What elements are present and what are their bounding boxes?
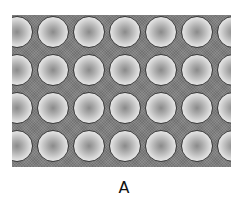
sphere-particle bbox=[73, 54, 105, 86]
sphere-particle bbox=[12, 16, 33, 48]
sphere-particle bbox=[145, 16, 177, 48]
sphere-particle bbox=[12, 92, 33, 124]
sphere-particle bbox=[145, 54, 177, 86]
sphere-particle bbox=[37, 16, 69, 48]
sphere-particle bbox=[73, 130, 105, 162]
sphere-particle bbox=[12, 54, 33, 86]
sphere-particle bbox=[181, 130, 213, 162]
sphere-particle bbox=[181, 54, 213, 86]
sphere-particle bbox=[109, 92, 141, 124]
sphere-particle bbox=[37, 130, 69, 162]
sphere-particle bbox=[217, 54, 231, 86]
sphere-particle bbox=[217, 92, 231, 124]
sphere-particle bbox=[217, 16, 231, 48]
sphere-particle bbox=[145, 92, 177, 124]
sphere-particle bbox=[181, 92, 213, 124]
sphere-particle bbox=[109, 130, 141, 162]
sphere-array-panel bbox=[12, 15, 231, 167]
sphere-particle bbox=[73, 16, 105, 48]
figure-caption: A bbox=[0, 178, 248, 197]
sphere-particle bbox=[73, 92, 105, 124]
sphere-particle bbox=[37, 92, 69, 124]
sphere-particle bbox=[109, 54, 141, 86]
sphere-particle bbox=[217, 130, 231, 162]
sphere-particle bbox=[181, 16, 213, 48]
sphere-particle bbox=[37, 54, 69, 86]
sphere-particle bbox=[145, 130, 177, 162]
sphere-particle bbox=[109, 16, 141, 48]
sphere-particle bbox=[12, 130, 33, 162]
